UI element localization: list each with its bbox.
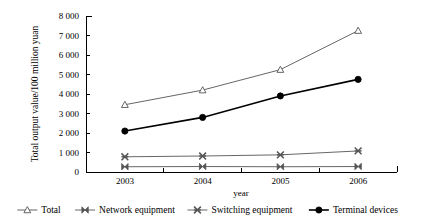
data-point-marker: [355, 148, 362, 155]
data-point-marker: [199, 153, 206, 160]
y-tick-label: 6 000: [59, 50, 80, 60]
y-tick-label: 0: [75, 167, 80, 177]
y-tick-label: 4 000: [59, 89, 80, 99]
legend-label: Total: [41, 205, 61, 215]
data-point-marker: [277, 164, 283, 170]
x-tick-label: 2005: [271, 176, 290, 186]
data-point-marker: [122, 164, 128, 170]
x-axis-label-text: year: [233, 188, 249, 198]
legend-label: Switching equipment: [211, 205, 292, 215]
x-tick-label: 2006: [349, 176, 368, 186]
legend-label: Network equipment: [99, 205, 175, 215]
series-line: [125, 31, 358, 105]
y-tick-label: 1 000: [59, 148, 80, 158]
data-point-marker: [355, 76, 361, 82]
x-tick-label: 2003: [116, 176, 135, 186]
y-tick-label: 8 000: [59, 11, 80, 21]
legend-item-terminal-devices[interactable]: Terminal devices: [309, 205, 398, 215]
legend-item-switching-equipment[interactable]: Switching equipment: [187, 205, 292, 215]
data-point-marker: [277, 93, 283, 99]
chart-legend: TotalNetwork equipmentSwitching equipmen…: [17, 205, 398, 215]
series-line: [125, 79, 358, 131]
x-axis-ticks: 2003200420052006: [86, 168, 397, 186]
x-tick-label: 2004: [194, 176, 213, 186]
data-point-marker: [277, 66, 284, 72]
data-point-marker: [121, 153, 128, 160]
legend-item-network-equipment[interactable]: Network equipment: [75, 205, 175, 215]
data-point-marker: [277, 151, 284, 158]
chart-figure: Total output value/100 million yuan 01 0…: [0, 0, 423, 220]
series-terminal-devices: [122, 76, 361, 134]
series-switching-equipment: [121, 148, 361, 161]
data-point-marker: [199, 163, 205, 169]
y-axis-label-text: Total output value/100 million yuan: [30, 25, 40, 162]
data-point-marker: [200, 114, 206, 120]
data-point-marker: [316, 207, 322, 213]
y-axis-label: Total output value/100 million yuan: [30, 25, 40, 162]
line-chart: Total output value/100 million yuan 01 0…: [0, 0, 423, 220]
series-line: [125, 151, 358, 157]
y-tick-label: 7 000: [59, 31, 80, 41]
series-group: [121, 27, 361, 170]
y-tick-label: 2 000: [59, 128, 80, 138]
legend-item-total[interactable]: Total: [17, 205, 61, 215]
legend-label: Terminal devices: [333, 205, 398, 215]
data-point-marker: [122, 128, 128, 134]
data-point-marker: [355, 27, 362, 33]
data-point-marker: [355, 163, 361, 169]
y-tick-label: 5 000: [59, 70, 80, 80]
series-total: [121, 27, 361, 107]
data-point-marker: [194, 207, 201, 214]
y-axis-ticks: 01 0002 0003 0004 0005 0006 0007 0008 00…: [59, 11, 90, 177]
data-point-marker: [82, 207, 88, 213]
y-tick-label: 3 000: [59, 109, 80, 119]
